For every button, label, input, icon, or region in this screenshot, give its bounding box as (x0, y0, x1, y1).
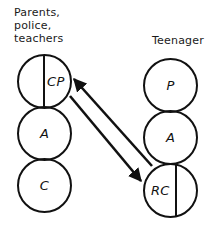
arrow-rc-to-cp (74, 79, 152, 166)
arrow-cp-to-rc (70, 96, 141, 181)
transaction-arrows (0, 0, 215, 230)
transactional-analysis-diagram: Parents, police, teachers Teenager CP A … (0, 0, 215, 230)
